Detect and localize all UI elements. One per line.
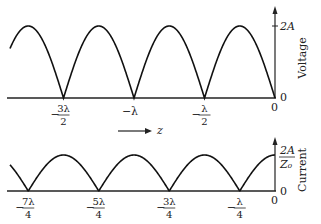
arrow-right-icon bbox=[145, 128, 152, 134]
svg-text:2: 2 bbox=[201, 116, 207, 127]
voltage-origin-label: 0 bbox=[271, 101, 278, 114]
x-tick-label: −λ bbox=[122, 105, 138, 118]
standing-wave-diagram: 2A 0 0 Voltage −3λ2−λ−λ2 z 2A Z₀ 0 0 Cur… bbox=[0, 0, 321, 224]
voltage-peak-label: 2A bbox=[279, 20, 295, 33]
x-tick-label: −λ2 bbox=[192, 103, 211, 127]
x-tick-label: −5λ4 bbox=[86, 196, 106, 220]
voltage-axis-title: Voltage bbox=[296, 37, 309, 80]
svg-text:4: 4 bbox=[96, 209, 102, 220]
svg-text:λ: λ bbox=[201, 103, 208, 114]
svg-text:5λ: 5λ bbox=[92, 196, 105, 207]
x-tick-label: −7λ4 bbox=[15, 196, 35, 220]
svg-text:3λ: 3λ bbox=[57, 103, 70, 114]
current-axis-arrow-icon bbox=[273, 137, 278, 145]
current-plot: 2A Z₀ 0 0 Current −7λ4−5λ4−3λ4−λ4 bbox=[7, 137, 309, 220]
svg-text:4: 4 bbox=[166, 209, 172, 220]
z-label: z bbox=[156, 124, 163, 137]
x-tick-label: −3λ2 bbox=[51, 103, 71, 127]
svg-text:−: − bbox=[227, 201, 236, 214]
svg-text:λ: λ bbox=[237, 196, 244, 207]
current-peak-numerator: 2A bbox=[279, 144, 295, 157]
svg-text:−: − bbox=[192, 108, 201, 121]
svg-text:λ: λ bbox=[131, 105, 138, 118]
svg-text:2: 2 bbox=[60, 116, 66, 127]
x-tick-label: −λ4 bbox=[227, 196, 246, 220]
x-tick-label: −3λ4 bbox=[156, 196, 176, 220]
current-curve bbox=[10, 155, 275, 191]
voltage-zero-label: 0 bbox=[280, 91, 287, 104]
current-peak-denominator: Z₀ bbox=[279, 158, 293, 171]
current-origin-label: 0 bbox=[271, 194, 278, 207]
svg-text:−: − bbox=[122, 105, 131, 118]
svg-text:4: 4 bbox=[25, 209, 31, 220]
svg-text:4: 4 bbox=[237, 209, 243, 220]
voltage-plot: 2A 0 0 Voltage −3λ2−λ−λ2 bbox=[7, 6, 309, 127]
voltage-curve bbox=[10, 26, 275, 98]
svg-text:3λ: 3λ bbox=[163, 196, 176, 207]
current-zero-label: 0 bbox=[280, 185, 287, 198]
current-x-ticks: −7λ4−5λ4−3λ4−λ4 bbox=[15, 196, 246, 220]
current-axis-title: Current bbox=[296, 147, 309, 192]
z-direction-arrow: z bbox=[118, 124, 163, 137]
svg-text:7λ: 7λ bbox=[22, 196, 35, 207]
voltage-x-ticks: −3λ2−λ−λ2 bbox=[51, 103, 211, 127]
voltage-axis-arrow-icon bbox=[273, 6, 278, 14]
